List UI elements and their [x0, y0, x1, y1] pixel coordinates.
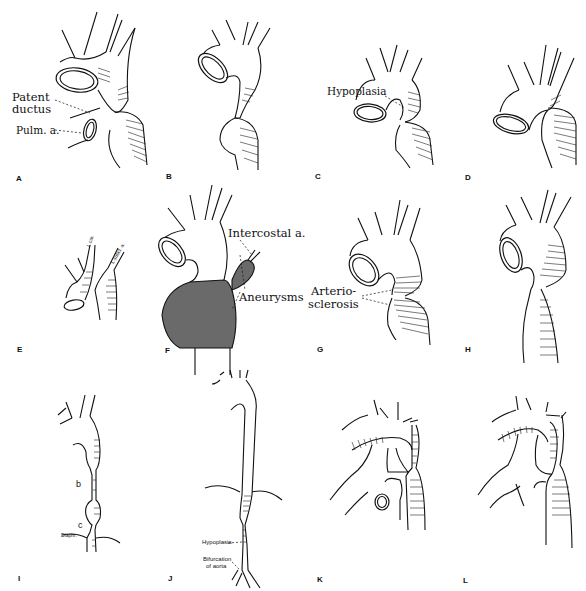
- panel-letter-g: G: [317, 345, 323, 354]
- label-diaphr: Diaphr.: [61, 533, 77, 538]
- panel-letter-e: E: [17, 345, 22, 354]
- panel-letter-h: H: [465, 345, 471, 354]
- label-arteriosclerosis-1: Arterio-: [311, 286, 356, 298]
- panel-d: D: [436, 0, 586, 190]
- aorta-drawing-h: [436, 185, 586, 380]
- label-arteriosclerosis-2: sclerosis: [308, 299, 359, 311]
- label-bifurcation-1: Bifurcation: [203, 556, 231, 562]
- aorta-drawing-f: [140, 180, 290, 380]
- panel-letter-i: I: [18, 574, 20, 583]
- panel-letter-j: J: [168, 574, 172, 583]
- panel-i: b c Diaphr. I: [0, 380, 150, 591]
- panel-letter-a: A: [16, 174, 22, 183]
- panel-b: B: [140, 0, 290, 190]
- label-pulm-a: Pulm. a.: [16, 125, 59, 136]
- panel-letter-c: C: [315, 172, 321, 181]
- label-c: c: [78, 521, 83, 530]
- panel-letter-d: D: [465, 173, 471, 182]
- panel-letter-k: K: [317, 575, 323, 584]
- panel-h: H: [436, 185, 586, 380]
- panel-l: L: [436, 380, 586, 591]
- panel-letter-l: L: [463, 576, 468, 585]
- aorta-drawing-g: [280, 190, 440, 375]
- panel-e: L.car. L.subcl. a. E: [0, 190, 150, 375]
- aorta-drawing-d: [436, 0, 586, 190]
- label-patent-ductus-2: ductus: [12, 104, 51, 116]
- panel-letter-f: F: [165, 346, 170, 355]
- label-b: b: [76, 480, 81, 489]
- label-bifurcation-2: of aorta: [206, 563, 226, 569]
- aorta-drawing-b: [140, 0, 290, 190]
- panel-j: Hypoplasia Bifurcation of aorta J: [150, 370, 290, 591]
- panel-k: K: [300, 380, 450, 591]
- aorta-drawing-e: [0, 190, 150, 375]
- label-hypoplasia-c: Hypoplasia: [327, 86, 386, 97]
- panel-f: Intercostal a. Aneurysms F: [140, 180, 290, 380]
- aorta-drawing-l: [436, 380, 586, 591]
- panel-c: Hypoplasia C: [290, 0, 440, 190]
- aorta-drawing-i: [0, 380, 150, 591]
- panel-a: Patent ductus Pulm. a. A: [0, 0, 150, 190]
- aorta-drawing-k: [300, 380, 450, 591]
- label-hypoplasia-j: Hypoplasia: [202, 539, 232, 545]
- panel-g: Arterio- sclerosis G: [280, 190, 440, 375]
